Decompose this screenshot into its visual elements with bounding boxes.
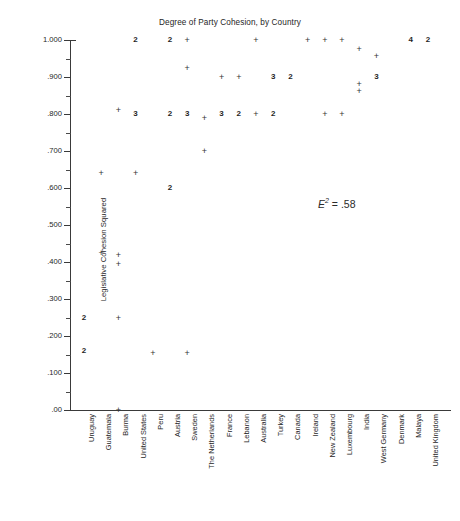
data-point-marker: + xyxy=(374,52,379,60)
x-category-label: France xyxy=(225,414,234,437)
data-point-marker: + xyxy=(339,110,344,118)
x-category-label: Guatemala xyxy=(104,414,113,450)
x-category-label-text: Australia xyxy=(259,414,268,443)
data-point-marker: + xyxy=(185,349,190,357)
data-point-marker: + xyxy=(357,45,362,53)
x-category-label-text: Malaya xyxy=(414,414,423,438)
x-category-label: Malaya xyxy=(414,414,423,438)
x-category-label: Australia xyxy=(259,414,268,443)
data-point-count-marker: 2 xyxy=(168,184,172,192)
data-point-count-marker: 2 xyxy=(237,110,241,118)
x-category-label-text: United States xyxy=(139,414,148,458)
y-tick-label: .200 xyxy=(18,331,62,340)
data-point-count-marker: 2 xyxy=(168,36,172,44)
data-point-marker: + xyxy=(202,147,207,155)
y-tick-label: .500 xyxy=(18,220,62,229)
y-tick-label: .300 xyxy=(18,294,62,303)
x-axis-line xyxy=(70,410,451,411)
y-tick-label-wrap: .500 xyxy=(0,225,62,226)
y-tick-minor xyxy=(66,355,71,356)
x-category-label: Turkey xyxy=(276,414,285,436)
y-tick-mark xyxy=(64,77,71,78)
y-tick-label-wrap: 1.000 xyxy=(0,40,62,41)
y-tick-minor xyxy=(66,318,71,319)
x-category-label-text: New Zealand xyxy=(328,414,337,458)
y-tick-minor xyxy=(66,59,71,60)
data-point-count-marker: 3 xyxy=(374,73,378,81)
data-point-marker: + xyxy=(322,36,327,44)
data-point-marker: + xyxy=(202,114,207,122)
data-point-count-marker: 2 xyxy=(271,110,275,118)
y-tick-mark xyxy=(64,188,71,189)
y-tick-label-wrap: .100 xyxy=(0,373,62,374)
x-category-label-text: Turkey xyxy=(276,414,285,436)
data-point-marker: + xyxy=(150,349,155,357)
y-tick-minor xyxy=(66,281,71,282)
data-point-marker: + xyxy=(322,110,327,118)
data-point-count-marker: 4 xyxy=(409,36,413,44)
data-point-marker: + xyxy=(185,36,190,44)
data-point-marker: + xyxy=(99,249,104,257)
y-tick-minor xyxy=(66,392,71,393)
data-point-marker: + xyxy=(253,110,258,118)
data-point-marker: + xyxy=(133,169,138,177)
x-category-label-text: Uruguay xyxy=(87,414,96,442)
x-category-label: India xyxy=(362,414,371,430)
eta-value: = .58 xyxy=(329,198,356,210)
y-tick-label-wrap: .800 xyxy=(0,114,62,115)
y-tick-mark xyxy=(64,373,71,374)
x-category-label-text: Peru xyxy=(156,414,165,430)
x-category-label-text: Burma xyxy=(121,414,130,436)
x-category-label: The Netherlands xyxy=(207,414,216,469)
x-category-label: West Germany xyxy=(379,414,388,463)
x-category-label: Canada xyxy=(293,414,302,440)
x-category-label-text: Luxembourg xyxy=(345,414,354,455)
y-tick-label-wrap: .400 xyxy=(0,262,62,263)
data-point-marker: + xyxy=(185,64,190,72)
x-category-label: New Zealand xyxy=(328,414,337,458)
x-category-label: Luxembourg xyxy=(345,414,354,455)
data-point-count-marker: 2 xyxy=(288,73,292,81)
y-tick-mark xyxy=(64,225,71,226)
y-tick-label-wrap: .300 xyxy=(0,299,62,300)
chart-title: Degree of Party Cohesion, by Country xyxy=(0,18,460,27)
data-point-count-marker: 2 xyxy=(133,36,137,44)
x-category-label-text: Sweden xyxy=(190,414,199,441)
y-tick-mark xyxy=(64,151,71,152)
x-category-label-text: India xyxy=(362,414,371,430)
y-tick-label-wrap: .600 xyxy=(0,188,62,189)
x-category-label: Sweden xyxy=(190,414,199,441)
data-point-count-marker: 3 xyxy=(219,110,223,118)
y-tick-minor xyxy=(66,96,71,97)
data-point-marker: + xyxy=(219,73,224,81)
x-category-label-text: Canada xyxy=(293,414,302,440)
y-tick-label: .600 xyxy=(18,183,62,192)
data-point-count-marker: 2 xyxy=(426,36,430,44)
x-category-label-text: West Germany xyxy=(379,414,388,463)
y-tick-mark xyxy=(64,410,71,411)
x-category-label: Austria xyxy=(173,414,182,437)
x-category-label-text: United Kingdom xyxy=(431,414,440,467)
x-category-label: Lebanon xyxy=(242,414,251,443)
chart-figure: Degree of Party Cohesion, by Country Leg… xyxy=(0,0,460,521)
data-point-count-marker: 3 xyxy=(271,73,275,81)
data-point-marker: + xyxy=(305,36,310,44)
y-tick-mark xyxy=(64,336,71,337)
plot-area: Legislative Cohesion Squared xyxy=(70,40,450,410)
y-tick-mark xyxy=(64,299,71,300)
y-tick-mark xyxy=(64,262,71,263)
data-point-count-marker: 2 xyxy=(82,347,86,355)
data-point-marker: + xyxy=(116,106,121,114)
x-category-label: Uruguay xyxy=(87,414,96,442)
data-point-marker: + xyxy=(99,169,104,177)
data-point-marker: + xyxy=(339,36,344,44)
y-tick-label-wrap: .200 xyxy=(0,336,62,337)
y-tick-label: 1.000 xyxy=(18,35,62,44)
y-tick-label: .00 xyxy=(18,405,62,414)
data-point-marker: + xyxy=(116,251,121,259)
y-tick-minor xyxy=(66,170,71,171)
x-category-label-text: Austria xyxy=(173,414,182,437)
data-point-marker: + xyxy=(357,87,362,95)
eta-squared-annotation: E2 = .58 xyxy=(318,197,356,210)
x-category-label: Burma xyxy=(121,414,130,436)
